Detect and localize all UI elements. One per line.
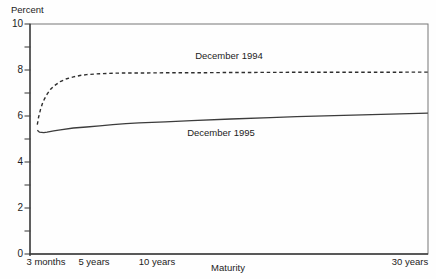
series-line-december-1994 <box>37 72 428 125</box>
yield-curve-chart: Percent 10 8 6 4 2 0 3 months 5 years 10… <box>0 0 436 279</box>
x-tick-label-30-years: 30 years <box>392 257 428 267</box>
x-tick-label-5-years: 5 years <box>78 257 109 267</box>
x-tick-label-10-years: 10 years <box>139 257 175 267</box>
x-tick-label-3-months: 3 months <box>26 257 65 267</box>
plot-area <box>0 0 436 279</box>
y-tick-label-2: 2 <box>0 202 23 213</box>
x-axis-title: Maturity <box>211 263 245 273</box>
series-label-december-1994: December 1994 <box>195 51 263 61</box>
y-tick-label-4: 4 <box>0 156 23 167</box>
y-tick-label-10: 10 <box>0 18 23 29</box>
y-tick-label-8: 8 <box>0 64 23 75</box>
y-axis-title: Percent <box>11 5 44 15</box>
series-label-december-1995: December 1995 <box>187 128 255 138</box>
y-tick-label-0: 0 <box>0 248 23 259</box>
y-tick-label-6: 6 <box>0 110 23 121</box>
